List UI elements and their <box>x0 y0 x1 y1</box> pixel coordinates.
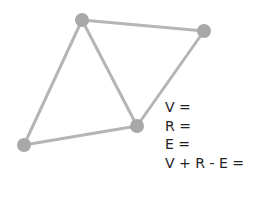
vertex-B <box>197 24 211 38</box>
euler-formula-worksheet: V = R = E = V + R - E = <box>165 98 244 172</box>
vertices-equation: V = <box>165 98 244 117</box>
edges-equation: E = <box>165 135 244 154</box>
euler-characteristic-equation: V + R - E = <box>165 154 244 173</box>
vertex-A <box>75 13 89 27</box>
vertex-D <box>17 138 31 152</box>
edge-A-C <box>82 20 137 126</box>
vertex-C <box>130 119 144 133</box>
edge-A-D <box>24 20 82 145</box>
edge-D-C <box>24 126 137 145</box>
edge-A-B <box>82 20 204 31</box>
regions-equation: R = <box>165 117 244 136</box>
